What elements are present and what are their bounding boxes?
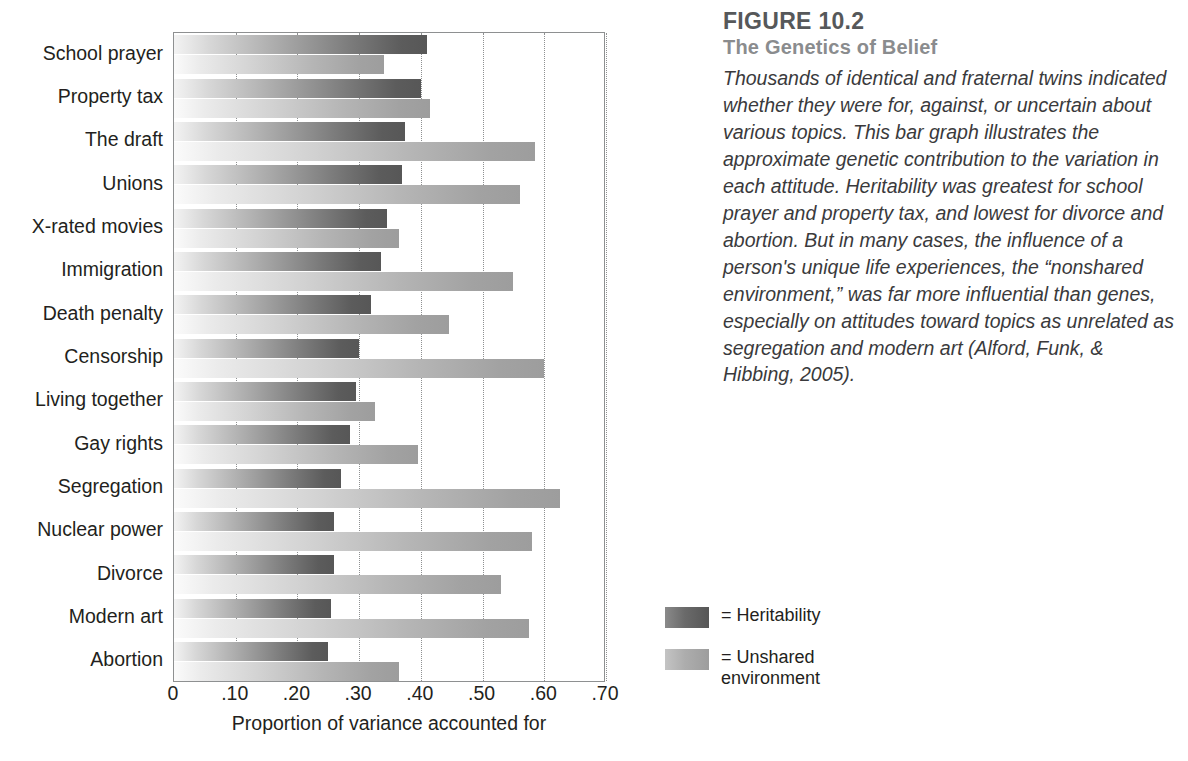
category-label: Modern art xyxy=(69,607,163,627)
category-label: Unions xyxy=(102,174,163,194)
category-label: Property tax xyxy=(58,87,163,107)
bar-heritability xyxy=(174,35,427,54)
bar-unshared-environment xyxy=(174,359,544,378)
gridline xyxy=(606,33,608,681)
bar-heritability xyxy=(174,555,334,574)
legend-item-unshared-environment: = Unshared environment xyxy=(665,649,895,671)
bar-heritability xyxy=(174,339,359,358)
plot-area xyxy=(173,32,605,682)
x-tick-label: .20 xyxy=(283,684,310,704)
x-tick-label: .40 xyxy=(406,684,433,704)
bar-unshared-environment xyxy=(174,662,399,681)
bar-heritability xyxy=(174,122,405,141)
bar-heritability xyxy=(174,252,381,271)
bar-unshared-environment xyxy=(174,402,375,421)
x-tick-label: .50 xyxy=(468,684,495,704)
category-label: Gay rights xyxy=(74,434,163,454)
x-tick-label: .70 xyxy=(591,684,618,704)
bar-unshared-environment xyxy=(174,445,418,464)
legend-swatch-unshared-environment xyxy=(665,649,709,670)
category-axis-labels: School prayerProperty taxThe draftUnions… xyxy=(0,28,163,682)
bar-heritability xyxy=(174,209,387,228)
bar-unshared-environment xyxy=(174,142,535,161)
bar-heritability xyxy=(174,165,402,184)
legend-swatch-heritability xyxy=(665,607,709,628)
category-label: Abortion xyxy=(90,651,163,671)
bar-heritability xyxy=(174,425,350,444)
bar-unshared-environment xyxy=(174,532,532,551)
bar-unshared-environment xyxy=(174,315,449,334)
category-label: Nuclear power xyxy=(37,521,163,541)
bar-unshared-environment xyxy=(174,489,560,508)
bar-chart: School prayerProperty taxThe draftUnions… xyxy=(0,0,660,761)
category-label: Living together xyxy=(35,391,163,411)
bar-unshared-environment xyxy=(174,55,384,74)
x-tick-label: 0 xyxy=(168,684,179,704)
bar-heritability xyxy=(174,642,328,661)
category-label: Death penalty xyxy=(43,304,163,324)
bar-unshared-environment xyxy=(174,272,513,291)
category-label: X-rated movies xyxy=(32,217,163,237)
bar-heritability xyxy=(174,295,371,314)
x-tick-label: .10 xyxy=(221,684,248,704)
bar-unshared-environment xyxy=(174,619,529,638)
gridline xyxy=(544,33,546,681)
category-label: The draft xyxy=(85,131,163,151)
legend-item-heritability: = Heritability xyxy=(665,607,895,629)
bar-unshared-environment xyxy=(174,99,430,118)
category-label: Immigration xyxy=(61,261,163,281)
figure-title: The Genetics of Belief xyxy=(723,36,1175,59)
figure-number: FIGURE 10.2 xyxy=(723,8,1175,34)
bar-heritability xyxy=(174,382,356,401)
bar-heritability xyxy=(174,79,421,98)
legend-label-unshared-environment: = Unshared environment xyxy=(721,647,820,689)
bar-unshared-environment xyxy=(174,575,501,594)
x-axis-title: Proportion of variance accounted for xyxy=(173,712,605,735)
bar-heritability xyxy=(174,512,334,531)
bar-unshared-environment xyxy=(174,229,399,248)
figure-10-2: School prayerProperty taxThe draftUnions… xyxy=(0,0,1188,761)
bar-heritability xyxy=(174,469,341,488)
x-tick-label: .60 xyxy=(530,684,557,704)
legend-label-heritability: = Heritability xyxy=(721,605,821,626)
figure-body-text: Thousands of identical and fraternal twi… xyxy=(723,65,1175,388)
category-label: Divorce xyxy=(97,564,163,584)
category-label: Segregation xyxy=(58,477,163,497)
bar-heritability xyxy=(174,599,331,618)
chart-legend: = Heritability = Unshared environment xyxy=(665,607,895,691)
x-tick-label: .30 xyxy=(345,684,372,704)
category-label: Censorship xyxy=(64,347,163,367)
bar-unshared-environment xyxy=(174,185,520,204)
figure-caption: FIGURE 10.2 The Genetics of Belief Thous… xyxy=(723,8,1175,388)
category-label: School prayer xyxy=(43,44,163,64)
